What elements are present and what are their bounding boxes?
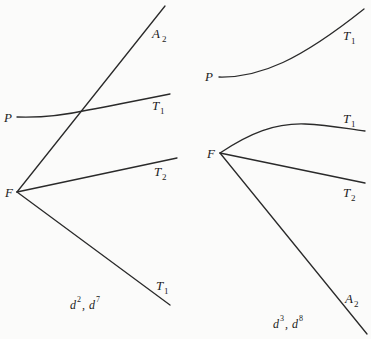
curve-f-t2 <box>17 158 177 192</box>
svg-text:2: 2 <box>162 172 167 182</box>
curve-f-t2 <box>220 153 365 183</box>
svg-text:d: d <box>70 298 77 312</box>
caption-d2-d7: d 2 , d 7 <box>70 295 100 312</box>
svg-text:2: 2 <box>162 34 167 44</box>
svg-text:T: T <box>343 185 351 200</box>
curve-f-a2 <box>220 153 367 334</box>
svg-text:T: T <box>154 164 162 179</box>
label-t1-upper: T 1 <box>152 98 165 116</box>
curve-p-t1 <box>219 9 364 77</box>
label-f: F <box>206 146 216 161</box>
svg-text:8: 8 <box>299 314 303 323</box>
svg-text:T: T <box>343 111 351 126</box>
svg-text:,: , <box>82 298 85 312</box>
svg-text:d: d <box>89 298 96 312</box>
caption-d3-d8: d 3 , d 8 <box>273 314 303 331</box>
label-t1-top: T 1 <box>343 28 356 46</box>
label-t2: T 2 <box>343 185 356 203</box>
svg-text:d: d <box>273 317 280 331</box>
tanabe-sugano-diagrams: P F A 2 T 1 T 2 T 1 d 2 , d 7 <box>0 0 371 339</box>
svg-text:2: 2 <box>354 299 359 309</box>
svg-text:2: 2 <box>351 193 356 203</box>
label-a2: A 2 <box>151 26 167 44</box>
label-p: P <box>3 110 12 125</box>
svg-text:1: 1 <box>160 106 165 116</box>
diagram-d2-d7: P F A 2 T 1 T 2 T 1 d 2 , d 7 <box>3 6 177 312</box>
svg-text:,: , <box>285 317 288 331</box>
curve-f-t1-mid <box>220 124 365 153</box>
svg-text:1: 1 <box>351 36 356 46</box>
svg-text:3: 3 <box>280 314 284 323</box>
svg-text:1: 1 <box>164 286 169 296</box>
svg-text:d: d <box>292 317 299 331</box>
svg-text:T: T <box>156 278 164 293</box>
label-a2: A 2 <box>344 291 359 309</box>
label-f: F <box>4 185 14 200</box>
label-t1-mid: T 1 <box>343 111 356 129</box>
label-p: P <box>204 69 213 84</box>
label-t1-lower: T 1 <box>156 278 169 296</box>
curve-f-t1-lower <box>17 192 170 305</box>
svg-text:7: 7 <box>96 295 100 304</box>
svg-text:1: 1 <box>351 119 356 129</box>
svg-text:T: T <box>343 28 351 43</box>
svg-text:A: A <box>151 26 160 41</box>
label-t2: T 2 <box>154 164 167 182</box>
svg-text:T: T <box>152 98 160 113</box>
svg-text:A: A <box>344 291 353 306</box>
diagram-d3-d8: P F T 1 T 1 T 2 A 2 d 3 , d 8 <box>204 9 367 334</box>
svg-text:2: 2 <box>77 295 81 304</box>
curve-p-t1 <box>17 94 170 117</box>
